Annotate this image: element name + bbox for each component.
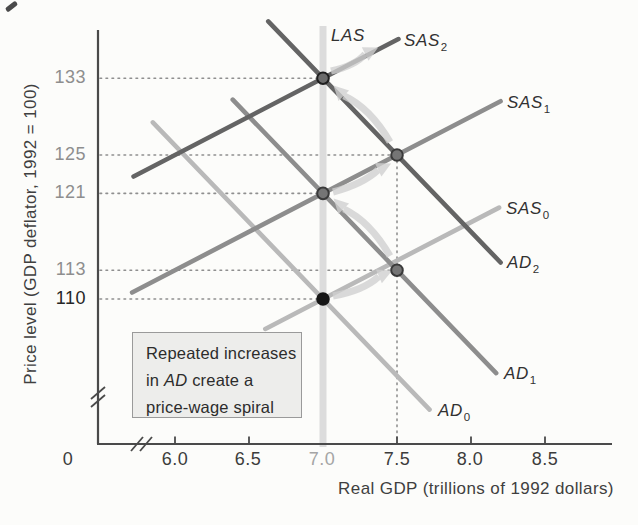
y-tick-125: 125 xyxy=(44,144,86,165)
x-tick-8.0: 8.0 xyxy=(448,449,492,470)
spiral-arrow-shaft xyxy=(344,96,390,142)
spiral-arrow-shaft xyxy=(331,54,365,71)
x-tick-6.5: 6.5 xyxy=(226,449,270,470)
spiral-arrow-1 xyxy=(333,269,392,296)
curve-label-sas0: SAS0 xyxy=(506,199,549,219)
x-tick-7.5: 7.5 xyxy=(375,449,419,470)
chart-canvas xyxy=(0,0,638,525)
y-tick-110: 110 xyxy=(44,288,86,309)
y-tick-121: 121 xyxy=(44,182,86,203)
curve-SAS1 xyxy=(132,101,501,292)
curve-label-ad0: AD0 xyxy=(438,401,470,421)
equilibrium-dot-133 xyxy=(317,72,329,84)
x-origin-label: 0 xyxy=(46,449,90,470)
curve-AD2 xyxy=(268,21,500,262)
spiral-arrow-3 xyxy=(333,163,391,192)
y-tick-133: 133 xyxy=(44,67,86,88)
curve-label-ad2: AD2 xyxy=(507,253,539,273)
y-tick-113: 113 xyxy=(44,259,86,280)
curve-label-ad1: AD1 xyxy=(504,364,536,384)
annotation-line-1: Repeated increases xyxy=(146,340,301,367)
spiral-arrow-shaft xyxy=(333,276,379,296)
annotation-line-3: price-wage spiral xyxy=(146,394,301,421)
spiral-arrow-4 xyxy=(334,86,390,142)
curve-label-sas1: SAS1 xyxy=(507,93,550,113)
curve-label-sas2: SAS2 xyxy=(404,31,447,51)
as-ad-price-wage-spiral-figure: Price level (GDP deflator, 1992 = 100) 1… xyxy=(0,0,638,525)
equilibrium-dot-113 xyxy=(391,264,403,276)
x-axis-title: Real GDP (trillions of 1992 dollars) xyxy=(330,479,622,499)
curve-label-las: LAS xyxy=(331,26,365,46)
annotation-line-2: in AD create a xyxy=(146,367,301,394)
annotation-box: Repeated increases in AD create a price-… xyxy=(132,332,302,418)
equilibrium-dot-125 xyxy=(391,149,403,161)
spiral-arrow-5 xyxy=(331,47,378,71)
spiral-arrow-2 xyxy=(334,199,390,256)
y-axis-title: Price level (GDP deflator, 1992 = 100) xyxy=(21,83,41,385)
equilibrium-dot-121 xyxy=(317,188,329,200)
equilibrium-dot-110 xyxy=(317,293,329,305)
spiral-arrow-shaft xyxy=(344,209,390,256)
spiral-arrow-shaft xyxy=(333,170,378,192)
x-tick-8.5: 8.5 xyxy=(523,449,567,470)
x-tick-6.0: 6.0 xyxy=(153,449,197,470)
x-tick-7.0: 7.0 xyxy=(300,449,344,470)
